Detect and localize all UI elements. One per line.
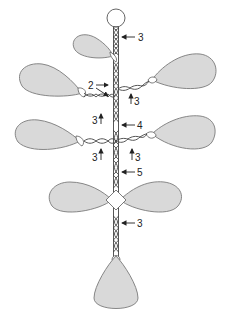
label-upper-right-branch: 3 — [131, 94, 140, 107]
label-junction-2: 2 — [88, 80, 108, 96]
bowtie-knot — [106, 190, 126, 210]
leaf-middle-left — [15, 120, 116, 150]
twisted-strand-diagram: 3 2 3 3 4 3 3 5 3 — [0, 0, 232, 320]
leaf-top-left — [73, 35, 116, 62]
label-middle-stem: 4 — [122, 120, 143, 131]
svg-text:3: 3 — [137, 218, 143, 229]
label-middle-left-branch: 3 — [92, 149, 101, 163]
leaf-upper-right — [118, 54, 216, 91]
svg-text:3: 3 — [92, 152, 98, 163]
label-upper-left-branch: 3 — [92, 114, 101, 126]
top-circle — [107, 9, 125, 27]
svg-text:2: 2 — [88, 80, 94, 91]
label-lower-stem: 5 — [122, 167, 143, 178]
svg-text:4: 4 — [137, 120, 143, 131]
svg-text:3: 3 — [135, 152, 141, 163]
svg-text:3: 3 — [134, 96, 140, 107]
leaf-bottom — [94, 256, 138, 309]
leaf-bowtie-left — [49, 182, 112, 212]
label-top-stem: 3 — [122, 32, 144, 43]
svg-text:3: 3 — [138, 32, 144, 43]
svg-text:3: 3 — [92, 115, 98, 126]
leaf-middle-right — [116, 116, 215, 149]
leaf-upper-left — [19, 64, 115, 97]
label-middle-right-branch: 3 — [132, 149, 141, 163]
label-bottom-stem: 3 — [122, 218, 143, 229]
svg-text:5: 5 — [137, 167, 143, 178]
leaf-bowtie-right — [120, 182, 182, 212]
